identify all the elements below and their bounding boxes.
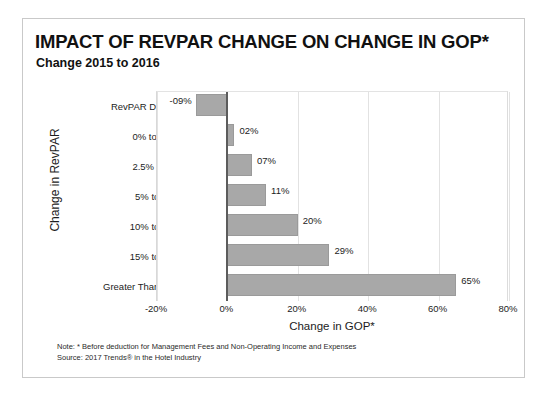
gridline-80% [509,92,510,301]
plot-wrapper: Change in RevPAR RevPAR Decline0% to 2.5… [23,77,526,327]
x-tick-label: -20% [145,303,167,314]
bar-value-label: 02% [239,125,258,136]
bar[interactable] [227,214,297,236]
zero-axis-line [226,92,228,301]
bar-value-label: 65% [461,275,480,286]
chart-frame: IMPACT OF REVPAR CHANGE ON CHANGE IN GOP… [22,18,525,378]
footnotes: Note: * Before deduction for Management … [57,341,356,363]
bar-row: 11% [157,182,507,212]
x-tick-label: 80% [498,303,517,314]
bar-row: -09% [157,92,507,122]
x-tick-label: 20% [287,303,306,314]
bar-row: 20% [157,212,507,242]
chart-title: IMPACT OF REVPAR CHANGE ON CHANGE IN GOP… [35,31,489,53]
bar[interactable] [227,274,456,296]
bar[interactable] [227,154,252,176]
x-axis-ticks: -20%0%20%40%60%80% [156,303,508,319]
bar-row: 02% [157,122,507,152]
bar[interactable] [227,124,234,146]
bar[interactable] [196,94,228,116]
bar-row: 65% [157,272,507,302]
plot-area: -09%02%07%11%20%29%65% [156,91,508,301]
x-tick-label: 0% [220,303,234,314]
bar-value-label: 20% [303,215,322,226]
bar[interactable] [227,244,329,266]
footnote-source: Source: 2017 Trends® in the Hotel Indust… [57,352,356,363]
bar-row: 07% [157,152,507,182]
x-tick-label: 40% [358,303,377,314]
chart-subtitle: Change 2015 to 2016 [36,56,160,70]
bar-value-label: 07% [257,155,276,166]
bar-value-label: 29% [334,245,353,256]
footnote-note: Note: * Before deduction for Management … [57,341,356,352]
bar-value-label: -09% [164,95,192,106]
x-axis-title: Change in GOP* [156,320,508,332]
bar-row: 29% [157,242,507,272]
bar-value-label: 11% [271,185,289,196]
x-tick-label: 60% [428,303,447,314]
bar[interactable] [227,184,266,206]
